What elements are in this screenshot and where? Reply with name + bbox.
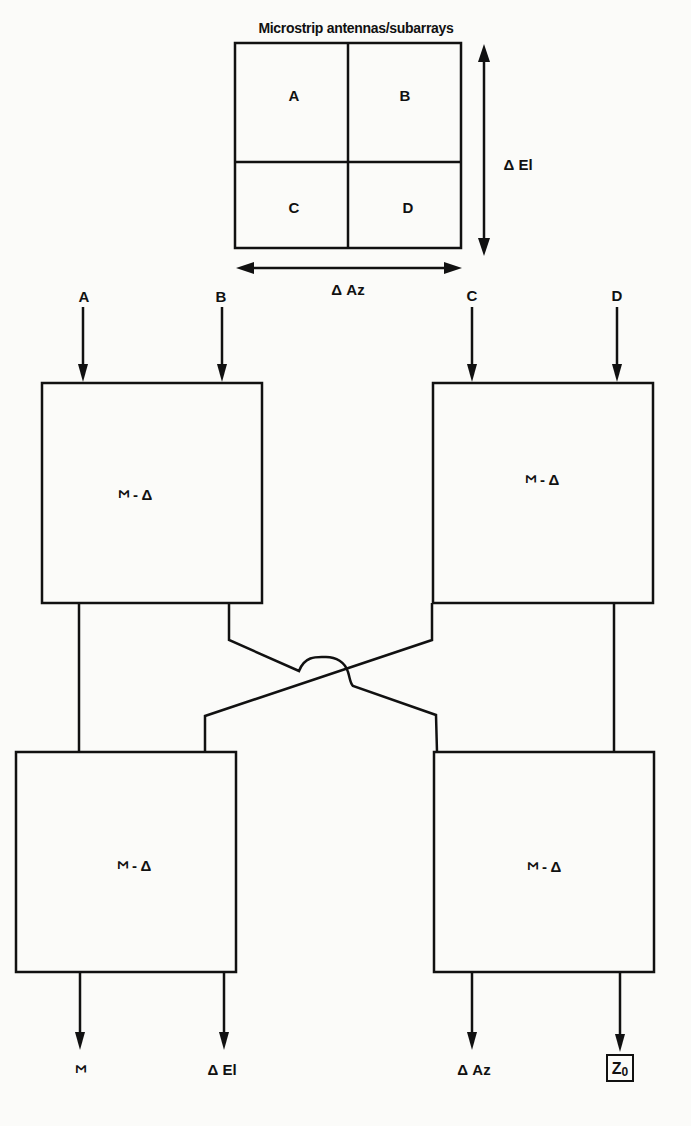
input-d-label: D [612, 287, 623, 304]
termination-z0: Z0 [606, 1054, 634, 1082]
hybrid-bottom-right-label: Σ - Δ [529, 858, 562, 875]
sigma-symbol: Σ [525, 861, 542, 870]
quadrant-a-label: A [289, 87, 300, 104]
quadrant-b-label: B [400, 87, 411, 104]
quadrant-d-label: D [403, 199, 414, 216]
output-sum-label: Σ [76, 1061, 85, 1078]
azimuth-axis-label: Δ Az [331, 281, 364, 298]
input-c-label: C [467, 287, 478, 304]
elevation-axis-label: Δ El [503, 156, 532, 173]
output-delta-az-label: Δ Az [457, 1061, 490, 1078]
sigma-symbol: Σ [523, 474, 540, 483]
hybrid-bottom-left-label: Σ - Δ [119, 857, 152, 874]
diagram-lines [0, 0, 691, 1126]
sigma-symbol: Σ [116, 489, 133, 498]
hybrid-top-left-label: Σ - Δ [120, 486, 153, 503]
diagram-title: Microstrip antennas/subarrays [258, 20, 453, 36]
quadrant-c-label: C [289, 199, 300, 216]
sigma-symbol: Σ [115, 860, 132, 869]
output-delta-el-label: Δ El [207, 1061, 236, 1078]
hybrid-top-right-label: Σ - Δ [527, 471, 560, 488]
input-a-label: A [79, 288, 90, 305]
input-b-label: B [216, 288, 227, 305]
